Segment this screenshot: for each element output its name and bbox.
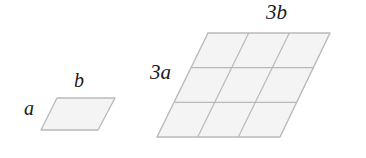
label-small-side-a: a bbox=[24, 98, 34, 118]
small-parallelogram-body bbox=[41, 98, 115, 130]
label-small-side-b: b bbox=[74, 70, 84, 90]
large-parallelogram-body bbox=[157, 33, 330, 137]
label-large-side-3b: 3b bbox=[266, 2, 287, 23]
figure-canvas: a b 3a 3b bbox=[0, 0, 366, 158]
small-parallelogram bbox=[41, 98, 115, 130]
large-parallelogram bbox=[157, 33, 330, 137]
geometry-figure bbox=[0, 0, 366, 158]
label-large-side-3a: 3a bbox=[150, 62, 171, 83]
